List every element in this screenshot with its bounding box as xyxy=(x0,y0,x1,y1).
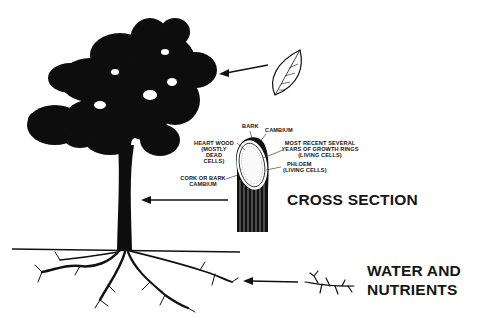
root-sample-icon xyxy=(305,271,354,294)
cross-section-log xyxy=(233,137,271,232)
label-cork-cambium-line: CAMBIUM xyxy=(180,182,226,188)
tree-canopy xyxy=(27,18,217,156)
arrow-leaf-to-canopy xyxy=(219,65,268,77)
tree-trunk xyxy=(117,145,134,250)
label-cork-cambium: CORK OR BARK CAMBIUM xyxy=(180,176,226,188)
label-cross-section: CROSS SECTION xyxy=(287,192,418,208)
label-heart-wood: HEART WOOD (MOSTLY DEAD CELLS) xyxy=(192,141,236,164)
leaf-icon xyxy=(273,50,302,95)
label-phloem-line: (LIVING CELLS) xyxy=(283,168,327,174)
label-heart-wood-line: CELLS) xyxy=(192,159,236,165)
label-cambium: CAMBIUM xyxy=(265,128,293,134)
label-phloem: PHLOEM (LIVING CELLS) xyxy=(283,162,327,174)
label-water-nutrients-line: WATER AND xyxy=(367,262,461,281)
arrow-water-to-roots xyxy=(243,277,298,285)
label-water-nutrients: WATER AND NUTRIENTS xyxy=(367,262,461,299)
label-water-nutrients-line: NUTRIENTS xyxy=(367,281,461,300)
label-growth-rings: MOST RECENT SEVERAL YEARS OF GROWTH RING… xyxy=(280,141,360,159)
label-growth-rings-line: (LIVING CELLS) xyxy=(280,153,360,159)
label-bark: BARK xyxy=(242,124,259,130)
tree-roots xyxy=(35,250,238,312)
arrow-cross-section-to-trunk xyxy=(141,196,228,204)
